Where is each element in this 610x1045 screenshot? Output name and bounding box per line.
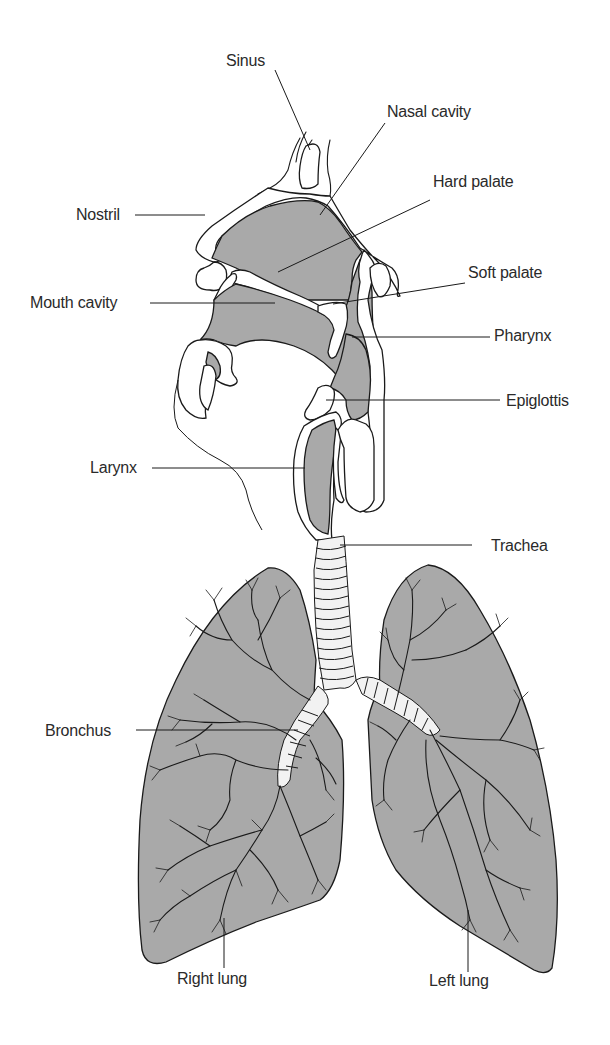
diagram-canvas <box>0 0 610 1045</box>
respiratory-diagram: Sinus Nasal cavity Hard palate Nostril S… <box>0 0 610 1045</box>
label-left-lung: Left lung <box>429 972 489 990</box>
label-larynx: Larynx <box>90 459 137 477</box>
sinus-shape <box>299 144 320 189</box>
right-lung-shape <box>138 568 343 964</box>
label-soft-palate: Soft palate <box>468 264 542 282</box>
label-pharynx: Pharynx <box>494 327 551 345</box>
right-lung-group <box>138 568 343 964</box>
left-lung-shape <box>368 565 557 973</box>
trachea <box>314 536 356 690</box>
left-lung-group <box>356 565 557 973</box>
label-mouth-cavity: Mouth cavity <box>30 294 117 312</box>
label-trachea: Trachea <box>491 537 548 555</box>
label-epiglottis: Epiglottis <box>506 392 569 410</box>
label-bronchus: Bronchus <box>45 722 111 740</box>
sinus-leader <box>275 70 310 150</box>
label-nasal-cavity: Nasal cavity <box>387 103 471 121</box>
label-hard-palate: Hard palate <box>433 173 514 191</box>
label-right-lung: Right lung <box>177 970 247 988</box>
label-sinus: Sinus <box>226 52 265 70</box>
label-nostril: Nostril <box>76 206 120 224</box>
nasal-cavity-leader <box>320 123 385 215</box>
